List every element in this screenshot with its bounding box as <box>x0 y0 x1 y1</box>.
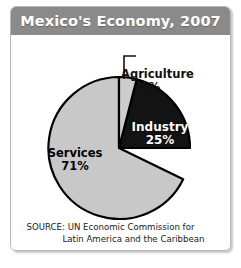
source-note-line-1: SOURCE: UN Economic Commission for <box>11 221 231 233</box>
industry-label-name: Industry <box>132 120 189 134</box>
chart-header-bar: Mexico's Economy, 2007 <box>11 7 230 35</box>
agriculture-label-name: Agriculture <box>121 67 194 81</box>
services-slice-label: Services 71% <box>39 147 111 173</box>
pie-chart-plot-area: Agriculture 4% Industry 25% Services 71%… <box>11 35 231 251</box>
chart-title: Mexico's Economy, 2007 <box>20 13 221 29</box>
industry-label-percent: 25% <box>124 134 196 147</box>
agriculture-label-percent: 4% <box>121 81 194 94</box>
pie-chart-graphic <box>11 35 231 220</box>
chart-card: Mexico's Economy, 2007 Agriculture 4% In… <box>10 6 231 251</box>
source-note-line-2: Latin America and the Caribbean <box>11 233 231 245</box>
services-label-name: Services <box>48 146 103 160</box>
industry-slice-label: Industry 25% <box>124 121 196 148</box>
source-note: SOURCE: UN Economic Commission for Latin… <box>11 221 231 246</box>
agriculture-callout-label: Agriculture 4% <box>121 68 194 94</box>
services-label-percent: 71% <box>39 160 111 173</box>
